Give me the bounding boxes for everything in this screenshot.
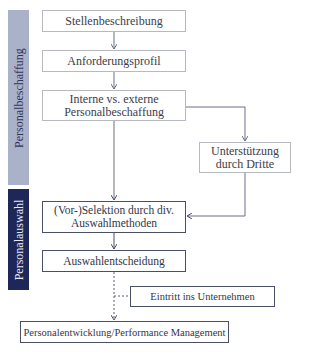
node-auswahlentscheidung: Auswahlentscheidung — [42, 250, 186, 272]
node-label-line2: Personalbeschaffung — [64, 106, 164, 119]
node-label-line1: (Vor-)Selektion durch div. — [54, 204, 174, 217]
node-label-line1: Unterstützung — [211, 145, 279, 158]
node-vorselektion: (Vor-)Selektion durch div. Auswahlmethod… — [42, 201, 186, 233]
node-interne-externe-personalbeschaffung: Interne vs. externe Personalbeschaffung — [42, 90, 186, 121]
node-label: Eintritt ins Unternehmen — [150, 290, 254, 303]
node-label: Auswahlentscheidung — [63, 255, 165, 268]
node-stellenbeschreibung: Stellenbeschreibung — [42, 10, 186, 32]
node-label: Anforderungsprofil — [67, 55, 160, 68]
node-label: Stellenbeschreibung — [65, 15, 162, 28]
edge-dritte-selektion — [187, 173, 245, 216]
node-label-line2: Auswahlmethoden — [54, 217, 174, 230]
node-label-line2: durch Dritte — [211, 158, 279, 171]
node-label: Personalentwicklung/Performance Manageme… — [23, 326, 225, 339]
node-anforderungsprofil: Anforderungsprofil — [42, 50, 186, 72]
node-unterstuetzung-durch-dritte: Unterstützung durch Dritte — [199, 142, 291, 173]
edge-intext-dritte — [186, 107, 245, 141]
node-label-line1: Interne vs. externe — [64, 93, 164, 106]
node-eintritt-ins-unternehmen: Eintritt ins Unternehmen — [130, 286, 275, 307]
node-personalentwicklung: Personalentwicklung/Performance Manageme… — [20, 321, 229, 343]
